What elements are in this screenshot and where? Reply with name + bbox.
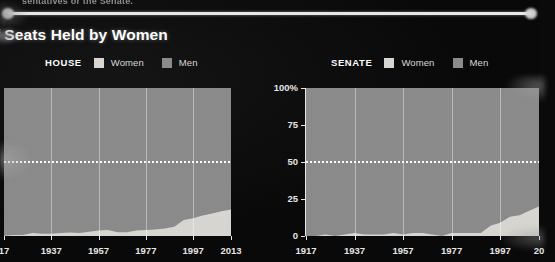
gridline	[355, 88, 356, 236]
x-tick-label: 17	[0, 245, 20, 256]
top-caption: sentatives or the Senate.	[22, 0, 322, 8]
x-tick-label: 1957	[83, 245, 115, 256]
house-fifty-percent-line	[4, 161, 231, 163]
divider-rule	[8, 12, 532, 15]
x-tick	[231, 236, 232, 240]
legend-house-men-swatch	[162, 58, 172, 68]
senate-plot-area	[306, 88, 539, 236]
y-tick-label: 75	[270, 119, 298, 130]
legend-house-women-swatch	[94, 58, 104, 68]
page-title: e of Seats Held by Women	[0, 26, 168, 44]
legend-senate-men-swatch	[453, 58, 463, 68]
chart-senate: 0255075100% 1917193719571977199720	[270, 80, 539, 262]
x-tick-label: 20	[523, 245, 555, 256]
x-tick	[355, 236, 356, 240]
x-tick-label: 1937	[339, 245, 371, 256]
gridline	[193, 88, 194, 236]
legend-house-men-label: Men	[179, 57, 198, 68]
legend-house-chamber: HOUSE	[45, 57, 82, 68]
y-tick	[301, 236, 305, 237]
gridline	[452, 88, 453, 236]
y-tick-label: 0	[270, 230, 298, 241]
gridline	[99, 88, 100, 236]
divider-cap-right	[525, 8, 537, 19]
x-tick	[306, 236, 307, 240]
x-tick	[193, 236, 194, 240]
y-tick-label: 25	[270, 193, 298, 204]
x-tick-label: 2013	[215, 245, 247, 256]
gridline	[51, 88, 52, 236]
x-tick	[539, 236, 540, 240]
x-tick-label: 1917	[290, 245, 322, 256]
x-tick	[403, 236, 404, 240]
y-tick	[301, 162, 305, 163]
x-tick-label: 1977	[130, 245, 162, 256]
gridline	[500, 88, 501, 236]
x-tick	[4, 236, 5, 240]
x-tick-label: 1937	[35, 245, 67, 256]
legend-senate: SENATE Women Men	[331, 57, 499, 68]
x-tick-label: 1977	[436, 245, 468, 256]
legend-house-women-label: Women	[111, 57, 144, 68]
x-tick	[500, 236, 501, 240]
gridline	[403, 88, 404, 236]
x-tick	[99, 236, 100, 240]
y-tick	[301, 125, 305, 126]
legend-senate-chamber: SENATE	[331, 57, 372, 68]
x-tick	[51, 236, 52, 240]
y-tick	[301, 199, 305, 200]
x-tick-label: 1957	[387, 245, 419, 256]
y-tick-label: 50	[270, 156, 298, 167]
legend-senate-women-label: Women	[401, 57, 434, 68]
chart-house: 1719371957197719972013	[0, 80, 270, 262]
x-tick-label: 1997	[484, 245, 516, 256]
house-plot-area	[4, 88, 231, 236]
headline-occlusion	[0, 28, 20, 44]
divider-cap-left	[2, 8, 14, 19]
gridline	[146, 88, 147, 236]
legend-senate-women-swatch	[384, 58, 394, 68]
x-tick-label: 1997	[177, 245, 209, 256]
y-tick-label: 100%	[270, 82, 298, 93]
x-tick	[452, 236, 453, 240]
senate-fifty-percent-line	[306, 161, 539, 163]
legend-house: HOUSE Women Men	[45, 57, 209, 68]
legend-senate-men-label: Men	[470, 57, 489, 68]
y-tick	[301, 88, 305, 89]
x-tick	[146, 236, 147, 240]
